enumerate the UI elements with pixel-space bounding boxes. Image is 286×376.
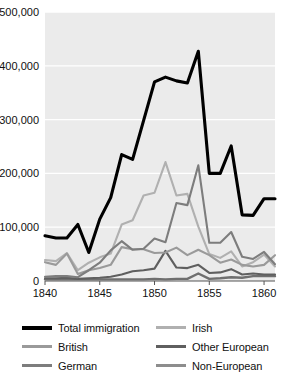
legend-grid: Total immigrationIrishBritishOther Europ…	[22, 318, 280, 375]
legend-color-swatch	[22, 345, 52, 348]
x-axis-tick-label: 1845	[88, 287, 112, 299]
y-axis-tick-label: 100,000	[0, 221, 39, 233]
y-axis-tick-label: 400,000	[0, 60, 39, 72]
y-axis-tick-label: 300,000	[0, 114, 39, 126]
legend-item-label: German	[58, 360, 97, 372]
x-axis-tick-label: 1850	[142, 287, 166, 299]
legend-item-label: Irish	[192, 322, 212, 334]
legend-item[interactable]: Other European	[156, 337, 286, 356]
legend-color-swatch	[156, 345, 186, 348]
x-axis-tick-label: 1840	[33, 287, 57, 299]
y-axis-tick-label: 500,000	[0, 6, 39, 18]
legend-color-swatch	[22, 326, 52, 330]
legend-item[interactable]: Non-European	[156, 356, 286, 375]
x-axis-tick-label: 1855	[197, 287, 221, 299]
legend-color-swatch	[156, 364, 186, 367]
legend-color-swatch	[156, 326, 186, 329]
chart-plot-svg: 0100,000200,000300,000400,000500,0001840…	[0, 0, 286, 310]
y-axis-tick-label: 0	[33, 275, 39, 287]
legend-item[interactable]: German	[22, 356, 156, 375]
legend-item-label: British	[58, 341, 88, 353]
legend-item-label: Other European	[192, 341, 269, 353]
legend-item[interactable]: Irish	[156, 318, 286, 337]
legend-item[interactable]: British	[22, 337, 156, 356]
chart-legend: Total immigrationIrishBritishOther Europ…	[0, 314, 286, 376]
x-axis-tick-label: 1860	[252, 287, 276, 299]
y-axis-tick-label: 200,000	[0, 167, 39, 179]
legend-item-label: Non-European	[192, 360, 262, 372]
legend-item[interactable]: Total immigration	[22, 318, 156, 337]
immigration-line-chart: 0100,000200,000300,000400,000500,0001840…	[0, 0, 286, 376]
legend-item-label: Total immigration	[58, 322, 139, 334]
legend-color-swatch	[22, 364, 52, 367]
chart-figure: 0100,000200,000300,000400,000500,0001840…	[0, 0, 286, 310]
